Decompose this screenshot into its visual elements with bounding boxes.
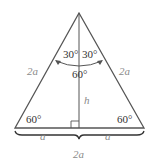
base-total-label: 2a — [73, 148, 85, 160]
base-half-label-right: a — [105, 130, 111, 142]
base-half-label-left: a — [40, 130, 46, 142]
angle-label-top-left: 30° — [63, 48, 78, 60]
right-angle-marker — [71, 121, 79, 128]
triangle-diagram: 30° 30° 60° 2a 2a h 60° 60° a a 2a — [0, 0, 157, 164]
base-brace — [15, 131, 144, 139]
angle-label-bottom-left: 60° — [26, 113, 41, 125]
side-label-left: 2a — [27, 65, 39, 77]
side-label-right: 2a — [119, 65, 131, 77]
height-label: h — [84, 94, 90, 106]
angle-label-top-right: 30° — [82, 48, 97, 60]
angle-label-top-full: 60° — [72, 68, 87, 80]
angle-label-bottom-right: 60° — [117, 113, 132, 125]
